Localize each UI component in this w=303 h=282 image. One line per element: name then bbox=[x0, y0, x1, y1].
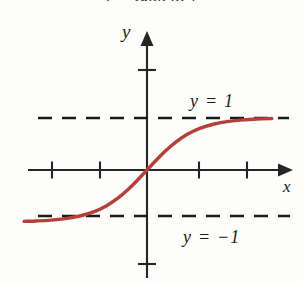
upper-asymptote-label: y = 1 bbox=[190, 92, 234, 110]
y-axis-arrowhead bbox=[141, 31, 154, 46]
x-axis-arrowhead bbox=[278, 164, 293, 177]
graph-canvas bbox=[0, 0, 303, 282]
x-axis-label: x bbox=[283, 178, 291, 195]
x-axis bbox=[28, 164, 293, 177]
y-axis bbox=[141, 31, 154, 278]
lower-asymptote-label: y = −1 bbox=[183, 228, 240, 246]
y-axis-label: y bbox=[122, 22, 130, 41]
function-graph-figure: y = tanh x, y bbox=[0, 0, 303, 282]
asymptote-lines bbox=[38, 118, 290, 216]
